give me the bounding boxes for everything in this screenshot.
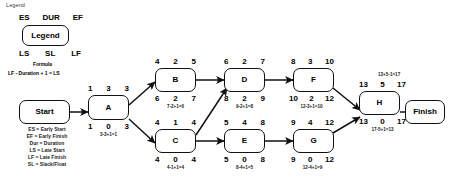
node-f-early-row: 8 3 10 — [291, 57, 334, 66]
node-h-lf: 17 — [397, 117, 406, 126]
definition-sl: SL = Slack/Float — [11, 161, 83, 168]
edge-a-b — [129, 82, 155, 105]
node-c-back-formula: 4-1+1=4 — [155, 165, 196, 170]
node-a-dur: 3 — [106, 84, 110, 93]
node-finish-label: Finish — [413, 108, 437, 116]
legend-formula-text: LF - Duration + 1 = LS — [8, 70, 60, 76]
node-g-label: G — [310, 137, 316, 145]
node-d-es: 6 — [224, 57, 228, 66]
node-start[interactable]: Start — [19, 100, 70, 124]
node-d-ef: 7 — [261, 57, 265, 66]
node-h-sl: 0 — [380, 117, 384, 126]
node-b-es: 4 — [155, 57, 159, 66]
node-c-lf: 4 — [192, 155, 196, 164]
node-b[interactable]: B — [155, 68, 196, 92]
node-g-sl: 0 — [308, 155, 312, 164]
node-f[interactable]: F — [293, 68, 334, 92]
node-e-early-row: 5 4 8 — [224, 118, 265, 127]
node-d-dur: 2 — [242, 57, 246, 66]
node-c-ef: 4 — [192, 118, 196, 127]
node-c-dur: 1 — [173, 118, 177, 127]
node-h-es: 13 — [359, 80, 368, 89]
node-b-early-row: 4 2 5 — [155, 57, 196, 66]
edge-a-c — [129, 119, 155, 143]
node-h-back-formula: 17-5+1=13 — [359, 127, 406, 132]
node-g-ef: 12 — [325, 118, 334, 127]
node-c[interactable]: C — [155, 129, 196, 153]
node-g-back-formula: 12-4+1=9 — [291, 165, 334, 170]
legend-header-dur: DUR — [43, 13, 60, 22]
node-e-es: 5 — [224, 118, 228, 127]
node-a-late-row: 1 0 3 — [88, 122, 129, 131]
node-a-ef: 3 — [125, 84, 129, 93]
node-h[interactable]: H — [359, 91, 400, 115]
node-d-sl: 2 — [242, 94, 246, 103]
node-g-dur: 4 — [308, 118, 312, 127]
node-a-sl: 0 — [106, 122, 110, 131]
node-h-ef: 17 — [397, 80, 406, 89]
node-g-lf: 12 — [325, 155, 334, 164]
legend-header-ef: EF — [73, 13, 83, 22]
node-h-label: H — [377, 99, 383, 107]
node-b-sl: 2 — [173, 94, 177, 103]
legend-formula-title: Formula — [33, 62, 52, 67]
node-h-dur: 5 — [380, 80, 384, 89]
node-d-late-row: 8 2 9 — [224, 94, 265, 103]
definition-lf: LF = Late Finish — [11, 154, 83, 161]
node-d-early-row: 6 2 7 — [224, 57, 265, 66]
node-b-back-formula: 7-2+1=6 — [155, 104, 196, 109]
legend-header-es: ES — [19, 13, 30, 22]
edge-c-d — [196, 88, 227, 135]
node-g-ls: 9 — [291, 155, 295, 164]
node-c-late-row: 4 0 4 — [155, 155, 196, 164]
node-a-early-row: 1 3 3 — [88, 84, 129, 93]
node-e-ls: 5 — [224, 155, 228, 164]
node-e-sl: 0 — [242, 155, 246, 164]
node-g-early-row: 9 4 12 — [291, 118, 334, 127]
node-f-lf: 12 — [325, 94, 334, 103]
node-d-ls: 8 — [224, 94, 228, 103]
legend-node-box: Legend — [22, 25, 69, 46]
node-start-label: Start — [35, 108, 53, 116]
node-a-ls: 1 — [88, 122, 92, 131]
legend-header-lf: LF — [71, 49, 81, 58]
edge-f-h — [333, 88, 360, 110]
definition-ef: EF = Early Finish — [11, 133, 83, 140]
node-e-lf: 8 — [261, 155, 265, 164]
node-h-late-row: 13 0 17 — [359, 117, 406, 126]
node-f-dur: 3 — [308, 57, 312, 66]
node-finish[interactable]: Finish — [405, 100, 445, 124]
legend-header-top: ES DUR EF — [19, 13, 83, 22]
network-diagram-canvas: Legend ES DUR EF Legend LS SL LF Formula… — [0, 0, 450, 193]
legend-header-sl: SL — [45, 49, 55, 58]
node-b-late-row: 6 2 7 — [155, 94, 196, 103]
node-a[interactable]: A — [88, 95, 129, 120]
node-h-ls: 13 — [359, 117, 368, 126]
node-c-sl: 0 — [173, 155, 177, 164]
legend-caption: Legend — [6, 2, 25, 8]
node-f-label: F — [311, 76, 316, 84]
legend-definitions: ES = Early Start EF = Early Finish Dur =… — [11, 126, 83, 169]
node-e[interactable]: E — [224, 129, 265, 153]
node-e-label: E — [242, 137, 247, 145]
node-d-lf: 9 — [261, 94, 265, 103]
definition-es: ES = Early Start — [11, 126, 83, 133]
definition-ls: LS = Late Start — [11, 147, 83, 154]
node-f-ef: 10 — [325, 57, 334, 66]
node-g[interactable]: G — [293, 129, 334, 153]
node-a-back-formula: 3-3+1=1 — [88, 132, 129, 137]
node-c-early-row: 4 1 4 — [155, 118, 196, 127]
node-b-ls: 6 — [155, 94, 159, 103]
legend-node-label: Legend — [31, 32, 59, 40]
node-f-late-row: 10 2 12 — [289, 94, 334, 103]
node-f-sl: 2 — [309, 94, 313, 103]
node-b-dur: 2 — [173, 57, 177, 66]
node-d[interactable]: D — [224, 68, 265, 92]
node-c-label: C — [173, 137, 179, 145]
node-c-es: 4 — [155, 118, 159, 127]
node-d-back-formula: 9-2+1=8 — [224, 104, 265, 109]
legend-header-bottom: LS SL LF — [19, 49, 81, 58]
definition-dur: Dur = Duration — [11, 140, 83, 147]
node-h-forward-formula: 13+5-1=17 — [378, 72, 400, 77]
node-e-dur: 4 — [242, 118, 246, 127]
